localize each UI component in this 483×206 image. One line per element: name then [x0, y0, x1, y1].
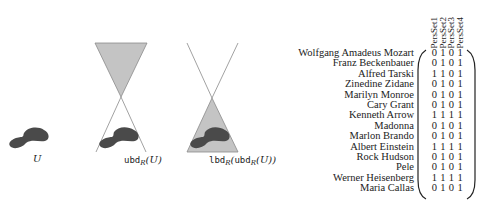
- binary-matrix: 0101 0101 1101 0101 0101 0101 1111 0101 …: [430, 48, 464, 193]
- label-lbd-sub: R: [225, 159, 230, 167]
- cone-line-right: [121, 97, 146, 152]
- matrix-left-paren: [418, 50, 426, 199]
- cone-line-left-upper: [187, 43, 212, 98]
- row-name: Rock Hudson: [280, 152, 414, 162]
- column-header: PersSet4: [456, 17, 465, 49]
- matrix-row-names: Wolfgang Amadeus Mozart Franz Beckenbaue…: [280, 48, 414, 193]
- set-u-blob: [99, 127, 138, 148]
- label-inner-arg: (U)): [256, 154, 276, 165]
- label-ubd-sub: R: [140, 159, 145, 167]
- cone-line-right-upper: [212, 43, 238, 98]
- matrix-right-paren: [467, 50, 475, 199]
- label-inner-op: ubd: [234, 155, 250, 165]
- label-ubd-op: ubd: [124, 155, 140, 165]
- cell: 1: [456, 183, 465, 193]
- cell: 0: [447, 131, 456, 141]
- set-u-blob: [9, 128, 48, 149]
- label-u: U: [33, 153, 41, 164]
- label-ubd-arg: (U): [146, 154, 162, 165]
- matrix-row: 0101: [430, 183, 464, 193]
- cell: 1: [456, 79, 465, 89]
- matrix-row: 0101: [430, 79, 464, 89]
- matrix-row: 0101: [430, 131, 464, 141]
- row-name: Marlon Brando: [280, 131, 414, 141]
- cell: 1: [456, 131, 465, 141]
- cell: 0: [430, 131, 439, 141]
- label-ubd: ubdR(U): [124, 154, 162, 165]
- label-lbd-ubd: lbdR(ubdR(U)): [209, 154, 276, 165]
- cell: 1: [439, 183, 448, 193]
- cell: 0: [447, 79, 456, 89]
- row-name: Zinedine Zidane: [280, 79, 414, 89]
- row-name: Maria Callas: [280, 183, 414, 193]
- cell: 1: [439, 79, 448, 89]
- label-lbd-op: lbd: [209, 155, 225, 165]
- upper-cone-fill: [95, 43, 147, 97]
- cell: 1: [439, 131, 448, 141]
- cell: 0: [430, 79, 439, 89]
- cell: 0: [447, 183, 456, 193]
- cell: 0: [430, 183, 439, 193]
- label-inner-sub: R: [251, 159, 256, 167]
